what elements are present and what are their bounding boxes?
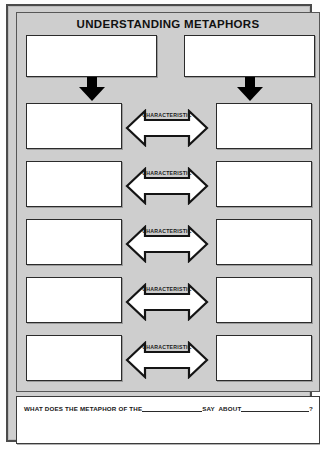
arrow-head [79, 87, 105, 101]
characteristic-left-box[interactable] [26, 161, 122, 207]
worksheet-frame: UNDERSTANDING METAPHORS CHARACTERISTICCH… [6, 4, 312, 442]
worksheet-page: UNDERSTANDING METAPHORS CHARACTERISTICCH… [0, 0, 320, 450]
double-arrow-icon [125, 225, 209, 263]
double-arrow-icon [125, 283, 209, 321]
characteristic-left-box[interactable] [26, 335, 122, 381]
characteristic-right-box[interactable] [216, 161, 312, 207]
characteristic-connector: CHARACTERISTIC [125, 277, 209, 323]
answer-blank-1[interactable] [142, 405, 202, 412]
answer-panel[interactable]: WHAT DOES THE METAPHOR OF THE SAY ABOUT … [16, 396, 320, 444]
characteristic-connector: CHARACTERISTIC [125, 219, 209, 265]
down-arrow-icon [79, 77, 105, 101]
double-arrow-icon [125, 109, 209, 147]
characteristic-right-box[interactable] [216, 277, 312, 323]
characteristic-right-box[interactable] [216, 103, 312, 149]
characteristic-left-box[interactable] [26, 219, 122, 265]
page-title: UNDERSTANDING METAPHORS [17, 18, 319, 30]
double-arrow-icon [125, 341, 209, 379]
characteristic-right-box[interactable] [216, 335, 312, 381]
characteristic-left-box[interactable] [26, 103, 122, 149]
metaphor-subject-box[interactable] [26, 35, 157, 77]
answer-blank-2[interactable] [241, 405, 309, 412]
characteristic-connector: CHARACTERISTIC [125, 161, 209, 207]
characteristic-connector: CHARACTERISTIC [125, 103, 209, 149]
double-arrow-icon [125, 167, 209, 205]
answer-prompt-part-1: WHAT DOES THE METAPHOR OF THE [24, 405, 142, 412]
characteristic-right-box[interactable] [216, 219, 312, 265]
graphic-organizer: UNDERSTANDING METAPHORS CHARACTERISTICCH… [16, 12, 320, 392]
answer-prompt-part-3: ? [309, 405, 313, 412]
characteristic-connector: CHARACTERISTIC [125, 335, 209, 381]
down-arrow-icon [237, 77, 263, 101]
characteristic-left-box[interactable] [26, 277, 122, 323]
answer-prompt-part-2: SAY ABOUT [202, 405, 241, 412]
metaphor-comparison-box[interactable] [184, 35, 315, 77]
answer-prompt: WHAT DOES THE METAPHOR OF THE SAY ABOUT … [24, 405, 313, 412]
arrow-head [237, 87, 263, 101]
